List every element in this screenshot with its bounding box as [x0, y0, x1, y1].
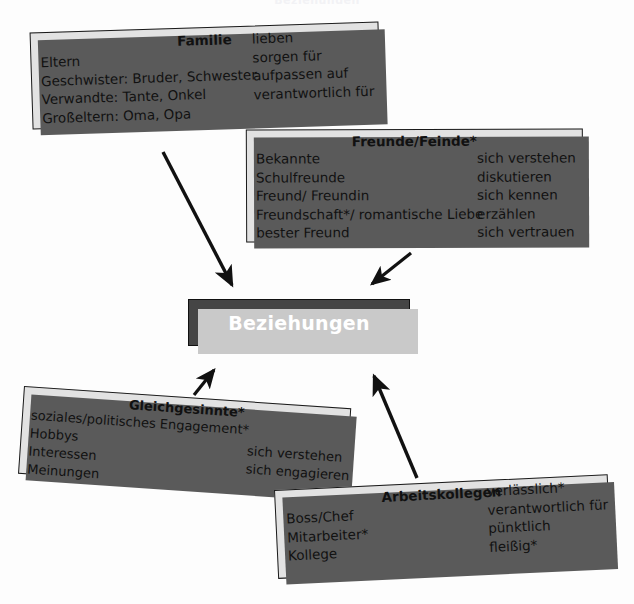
list-item: sich vertrauen [477, 222, 576, 241]
list-item: Schulfreunde [256, 167, 477, 186]
node-beziehungen-center[interactable]: Beziehungen [188, 299, 410, 346]
node-gleichgesinnte-verbs: sich verstehen sich engagieren [245, 442, 351, 485]
node-freunde-feinde-nouns: Bekannte Schulfreunde Freund/ Freundin F… [256, 149, 477, 242]
arrow-freunde-to-center [372, 253, 411, 284]
node-arbeitskollegen-verbs: verlässlich* verantwortlich für pünktlic… [486, 476, 610, 556]
node-arbeitskollegen[interactable]: Arbeitskollegen Boss/Chef Mitarbeiter* K… [274, 474, 612, 579]
list-item: bester Freund [256, 223, 477, 242]
page-title-remnant: Beziehungen [0, 0, 634, 4]
node-familie-nouns: Eltern Geschwister: Bruder, Schwester Ve… [40, 47, 254, 128]
list-item: Bekannte [256, 149, 477, 168]
diagram-canvas: Beziehungen Familie Eltern Geschwister: … [0, 0, 634, 604]
arrow-gleichgesinnte-to-center [194, 370, 214, 395]
list-item: sich kennen [477, 185, 576, 204]
node-arbeitskollegen-nouns: Boss/Chef Mitarbeiter* Kollege [286, 500, 490, 565]
list-item: Freundschaft*/ romantische Liebe [256, 204, 477, 223]
list-item: Freund/ Freundin [256, 186, 477, 205]
node-familie[interactable]: Familie Eltern Geschwister: Bruder, Schw… [30, 22, 382, 130]
arrow-arbeitskollegen-to-center [374, 376, 417, 478]
list-item: diskutieren [477, 167, 576, 186]
node-beziehungen-center-label: Beziehungen [228, 312, 370, 334]
list-item: verantwortlich für [253, 81, 374, 103]
node-freunde-feinde-verbs: sich verstehen diskutieren sich kennen e… [477, 148, 576, 241]
node-gleichgesinnte-nouns: soziales/politisches Engagement* Hobbys … [27, 407, 249, 494]
node-freunde-feinde[interactable]: Freunde/Feinde* Bekannte Schulfreunde Fr… [246, 128, 583, 242]
list-item: sich verstehen [477, 148, 576, 167]
node-gleichgesinnte[interactable]: Gleichgesinnte* soziales/politisches Eng… [18, 386, 351, 496]
arrow-familie-to-center [163, 152, 232, 285]
node-freunde-feinde-title: Freunde/Feinde* [247, 132, 582, 149]
node-familie-verbs: lieben sorgen für aufpassen auf verantwo… [252, 26, 375, 104]
list-item: erzählen [477, 204, 576, 223]
